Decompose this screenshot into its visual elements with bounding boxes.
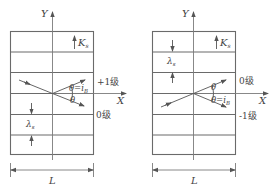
svg-text:λs: λs (166, 56, 176, 67)
svg-text:Ks: Ks (77, 37, 89, 49)
left-width-label: L (48, 175, 56, 186)
svg-text:θ=iB: θ=iB (211, 95, 230, 106)
right-panel: Y X Ks λs θ θ=iB 0级 -1级 L (153, 8, 269, 186)
right-order-lower-label: -1级 (239, 110, 257, 121)
left-wavelength-label: λ (25, 119, 32, 129)
right-zero-order-ray (194, 80, 227, 94)
left-incident-ray-arrow-icon (24, 82, 30, 84)
right-width-label: L (190, 175, 198, 186)
right-angle-lower-label: θ=i (211, 95, 226, 105)
left-x-axis-label: X (116, 95, 125, 106)
left-angle-lower-label: θ (70, 95, 75, 105)
right-y-axis-label: Y (182, 8, 190, 19)
left-y-axis-label: Y (41, 8, 49, 19)
left-panel: Y X Ks θ=iB θ +1级 0级 λs L (11, 8, 127, 186)
right-angle-upper-label: θ (211, 82, 216, 92)
svg-text:λs: λs (25, 119, 35, 130)
right-wavelength-label: λ (166, 56, 173, 66)
svg-text:θ=iB: θ=iB (69, 83, 88, 94)
right-order-upper-label: 0级 (239, 75, 254, 86)
left-order-lower-label: 0级 (96, 109, 111, 120)
right-incident-ray-arrow-icon (165, 103, 171, 106)
left-order-upper-label: +1级 (97, 76, 119, 87)
left-angle-upper-label: θ=i (69, 83, 84, 93)
svg-text:Ks: Ks (219, 37, 231, 49)
acousto-optic-diffraction-diagram: Y X Ks θ=iB θ +1级 0级 λs L (0, 0, 276, 187)
left-zero-order-ray (53, 94, 85, 107)
right-x-axis-label: X (258, 95, 267, 106)
